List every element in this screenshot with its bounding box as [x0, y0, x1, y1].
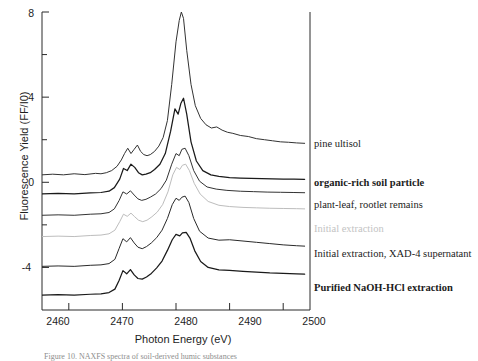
trace-label-pine-ultisol: pine ultisol	[314, 139, 361, 150]
spectrum-trace-0	[42, 12, 305, 175]
spectrum-trace-1	[42, 98, 305, 194]
trace-label-xad4-supernatant: Initial extraction, XAD-4 supernatant	[314, 249, 471, 260]
spectrum-trace-2	[42, 148, 305, 215]
trace-label-organic-rich-soil: organic-rich soil particle	[314, 178, 424, 189]
figure-caption: Figure 10. NAXFS spectra of soil-derived…	[44, 352, 464, 361]
trace-label-initial-extraction: Initial extraction	[314, 224, 384, 235]
spectrum-trace-4	[42, 196, 305, 266]
figure-panel: Fluorescence Yield (FF/I0) Photon Energy…	[0, 0, 478, 361]
trace-label-purified-naoh-hcl: Purified NaOH-HCl extraction	[314, 283, 453, 294]
spectrum-trace-5	[42, 232, 305, 295]
spectrum-trace-3	[42, 164, 305, 236]
trace-label-plant-leaf-rootlet: plant-leaf, rootlet remains	[314, 200, 423, 211]
